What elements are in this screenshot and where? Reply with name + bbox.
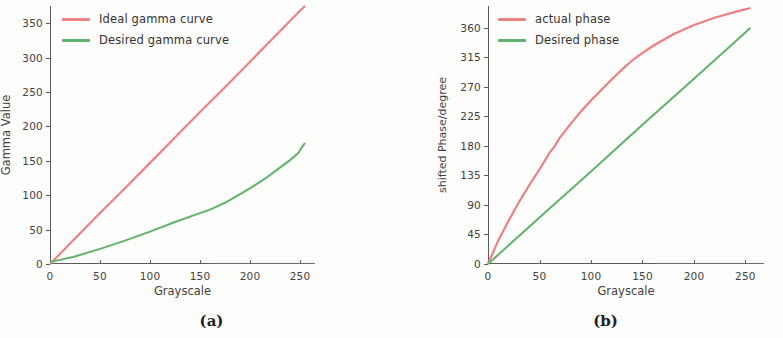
series-line-desired-gamma	[50, 143, 305, 262]
figure-two-panel-plots: 0 50 100 150 200 250 300 350 0 50 100 1	[0, 0, 783, 338]
x-tick-label-a-2: 100	[140, 270, 161, 282]
y-tick-label-b-7: 315	[460, 51, 481, 63]
legend-swatch-icon-ideal-gamma	[62, 18, 90, 21]
legend-swatch-icon-desired-phase	[498, 39, 526, 42]
y-axis-title-a: Gamma Value	[0, 95, 13, 176]
x-tick-label-b-0: 0	[485, 270, 492, 282]
legend-swatch-icon-desired-gamma	[62, 39, 90, 42]
x-tick-label-a-4: 200	[240, 270, 261, 282]
y-tick-label-b-2: 90	[467, 199, 481, 211]
legend-item-desired-phase: Desired phase	[498, 33, 619, 47]
subfigure-caption-a: (a)	[0, 312, 407, 330]
y-tick-label-a-4: 200	[22, 120, 43, 132]
legend-item-actual-phase: actual phase	[498, 12, 619, 26]
y-tick-label-a-1: 50	[29, 224, 43, 236]
y-tick-a-0	[46, 264, 50, 265]
y-tick-label-a-3: 150	[22, 155, 43, 167]
legend-label-ideal-gamma: Ideal gamma curve	[99, 12, 213, 26]
y-tick-label-a-5: 250	[22, 86, 43, 98]
series-line-desired-phase	[488, 28, 751, 264]
x-axis-title-b: Grayscale	[597, 284, 654, 298]
y-tick-b-0	[484, 264, 488, 265]
y-axis-title-b: shifted Phase/degree	[436, 77, 449, 193]
y-tick-label-b-0: 0	[474, 258, 481, 270]
y-tick-label-b-8: 360	[460, 22, 481, 34]
y-tick-label-a-7: 350	[22, 17, 43, 29]
y-tick-label-b-4: 180	[460, 140, 481, 152]
x-tick-label-a-0: 0	[47, 270, 54, 282]
legend-item-desired-gamma: Desired gamma curve	[62, 33, 229, 47]
x-tick-label-a-5: 250	[290, 270, 311, 282]
y-tick-label-a-2: 100	[22, 189, 43, 201]
legend-a: Ideal gamma curve Desired gamma curve	[62, 12, 229, 47]
legend-label-actual-phase: actual phase	[535, 12, 611, 26]
legend-swatch-icon-actual-phase	[498, 18, 526, 21]
y-tick-label-a-0: 0	[36, 258, 43, 270]
legend-b: actual phase Desired phase	[498, 12, 619, 47]
panel-b: 0 45 90 135 180 225 270 315 360 0 50 10	[392, 0, 783, 338]
y-tick-label-a-6: 300	[22, 52, 43, 64]
y-tick-label-b-3: 135	[460, 169, 481, 181]
y-tick-label-b-6: 270	[460, 81, 481, 93]
legend-label-desired-phase: Desired phase	[535, 33, 619, 47]
y-tick-label-b-1: 45	[467, 228, 481, 240]
subfigure-caption-b: (b)	[392, 312, 783, 330]
x-tick-label-b-5: 250	[735, 270, 756, 282]
x-tick-label-a-1: 50	[93, 270, 107, 282]
x-tick-label-b-4: 200	[684, 270, 705, 282]
legend-label-desired-gamma: Desired gamma curve	[99, 33, 229, 47]
legend-item-ideal-gamma: Ideal gamma curve	[62, 12, 229, 26]
x-axis-title-a: Grayscale	[154, 284, 211, 298]
x-tick-label-a-3: 150	[190, 270, 211, 282]
panel-a: 0 50 100 150 200 250 300 350 0 50 100 1	[0, 0, 391, 338]
y-tick-label-b-5: 225	[460, 110, 481, 122]
x-tick-label-b-2: 100	[581, 270, 602, 282]
x-tick-label-b-1: 50	[533, 270, 547, 282]
x-tick-label-b-3: 150	[632, 270, 653, 282]
